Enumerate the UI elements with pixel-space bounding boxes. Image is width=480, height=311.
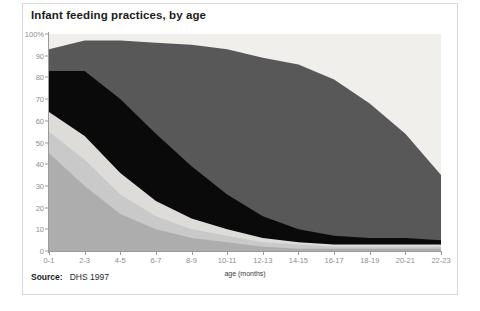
x-tick-mark [227, 251, 228, 255]
y-tick-mark [45, 207, 49, 208]
source-label: Source: [31, 272, 63, 282]
x-tick-label: 6-7 [150, 256, 161, 265]
y-tick-label: 80 [36, 73, 44, 82]
source-note: Source:DHS 1997 [31, 272, 109, 282]
x-axis-title: age (months) [224, 270, 265, 277]
y-tick-mark [45, 229, 49, 230]
x-tick-label: 22-23 [431, 256, 450, 265]
y-tick-label: 70 [36, 95, 44, 104]
y-tick-label: 40 [36, 160, 44, 169]
x-tick-mark [263, 251, 264, 255]
y-tick-mark [45, 77, 49, 78]
y-tick-mark [45, 164, 49, 165]
y-tick-mark [45, 185, 49, 186]
x-tick-label: 18-19 [360, 256, 379, 265]
x-tick-label: 2-3 [79, 256, 90, 265]
x-tick-mark [85, 251, 86, 255]
stacked-area-chart: 0102030405060708090100% 0-12-34-56-78-91… [49, 34, 441, 251]
y-tick-mark [45, 34, 49, 35]
x-tick-mark [441, 251, 442, 255]
y-tick-mark [45, 99, 49, 100]
y-tick-label: 10 [36, 225, 44, 234]
y-tick-label: 60 [36, 116, 44, 125]
x-tick-mark [370, 251, 371, 255]
x-tick-label: 20-21 [396, 256, 415, 265]
y-tick-label: 100% [25, 30, 44, 39]
x-tick-mark [120, 251, 121, 255]
x-tick-label: 12-13 [253, 256, 272, 265]
y-tick-label: 30 [36, 181, 44, 190]
y-tick-mark [45, 120, 49, 121]
x-tick-label: 14-15 [289, 256, 308, 265]
chart-card: Infant feeding practices, by age 0102030… [22, 3, 458, 295]
y-tick-label: 20 [36, 203, 44, 212]
y-tick-label: 90 [36, 51, 44, 60]
x-tick-mark [156, 251, 157, 255]
y-tick-mark [45, 142, 49, 143]
x-tick-mark [49, 251, 50, 255]
x-tick-label: 10-11 [218, 256, 237, 265]
x-tick-mark [405, 251, 406, 255]
x-tick-label: 4-5 [115, 256, 126, 265]
x-tick-label: 8-9 [186, 256, 197, 265]
y-tick-label: 0 [40, 247, 44, 256]
chart-areas [49, 34, 441, 251]
x-tick-label: 16-17 [324, 256, 343, 265]
x-tick-mark [298, 251, 299, 255]
source-value: DHS 1997 [70, 272, 109, 282]
x-tick-label: 0-1 [44, 256, 55, 265]
y-tick-mark [45, 55, 49, 56]
x-tick-mark [334, 251, 335, 255]
x-tick-mark [192, 251, 193, 255]
x-axis-line [48, 251, 441, 252]
y-tick-label: 50 [36, 138, 44, 147]
page-title: Infant feeding practices, by age [31, 9, 206, 21]
